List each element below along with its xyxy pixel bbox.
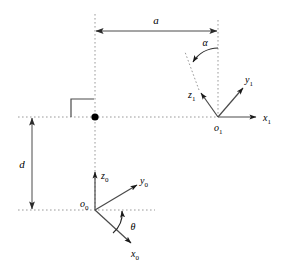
axis-x1-label: x1 [262,112,271,126]
axis-y0-line [95,185,137,210]
dimension-a-label: a [153,14,159,26]
axis-x0-line [95,210,131,243]
axis-y1-label: y1 [244,74,253,88]
axis-y1-line [218,88,243,117]
dimension-d: d [19,118,32,209]
dimension-a: a [96,14,217,31]
frame-1: x1 y1 z1 o1 [187,74,271,136]
axis-x0-label: x0 [130,248,139,262]
dimension-d-label: d [19,158,25,170]
angle-theta-label: θ [131,221,136,232]
axis-z1-label: z1 [187,89,196,103]
angle-alpha-arc [193,48,218,62]
angle-theta-arc [113,211,122,233]
construction-lines [18,14,218,211]
axis-z0-label: z0 [100,170,109,184]
right-angle-marker [71,99,94,117]
diagram-canvas: a d x1 y1 z1 o1 α [0,0,285,267]
angle-alpha-label: α [202,37,208,48]
frame-0: z0 y0 x0 o0 [80,170,148,262]
angle-alpha: α [193,37,218,62]
dh-parameter-diagram: a d x1 y1 z1 o1 α [0,0,285,267]
angle-theta: θ [113,211,136,233]
origin-o1-label: o1 [214,122,223,136]
origin-o0-label: o0 [80,198,89,212]
axis-y0-label: y0 [139,175,148,189]
axis-z1-line [201,93,218,117]
joint-dot [91,113,98,120]
